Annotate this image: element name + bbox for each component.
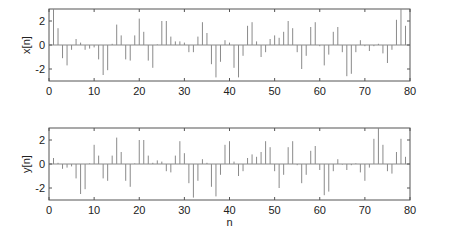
y-axis-label: x[n] bbox=[20, 36, 32, 54]
y-tick-label: -2 bbox=[35, 63, 45, 75]
plot-y-signal: 01020304050607080-202y[n]n bbox=[20, 128, 416, 228]
plot-x-signal: 01020304050607080-202x[n] bbox=[20, 9, 416, 97]
x-tick-label: 10 bbox=[88, 85, 100, 97]
x-tick-label: 70 bbox=[359, 204, 371, 216]
x-tick-label: 80 bbox=[404, 85, 416, 97]
x-tick-label: 40 bbox=[223, 85, 235, 97]
y-tick-label: 2 bbox=[39, 15, 45, 27]
x-tick-label: 70 bbox=[359, 85, 371, 97]
x-tick-label: 40 bbox=[223, 204, 235, 216]
x-tick-label: 0 bbox=[46, 85, 52, 97]
x-tick-label: 30 bbox=[178, 204, 190, 216]
y-tick-label: -2 bbox=[35, 182, 45, 194]
y-axis-label: y[n] bbox=[20, 155, 32, 173]
x-tick-label: 10 bbox=[88, 204, 100, 216]
x-tick-label: 80 bbox=[404, 204, 416, 216]
y-tick-label: 2 bbox=[39, 134, 45, 146]
figure: 01020304050607080-202x[n] 01020304050607… bbox=[0, 0, 456, 235]
x-tick-label: 60 bbox=[314, 85, 326, 97]
x-tick-label: 0 bbox=[46, 204, 52, 216]
x-axis-label: n bbox=[226, 216, 232, 228]
x-tick-label: 60 bbox=[314, 204, 326, 216]
x-tick-label: 20 bbox=[133, 204, 145, 216]
x-tick-label: 50 bbox=[269, 85, 281, 97]
y-tick-label: 0 bbox=[39, 39, 45, 51]
x-tick-label: 20 bbox=[133, 85, 145, 97]
x-tick-label: 50 bbox=[269, 204, 281, 216]
x-tick-label: 30 bbox=[178, 85, 190, 97]
y-tick-label: 0 bbox=[39, 158, 45, 170]
